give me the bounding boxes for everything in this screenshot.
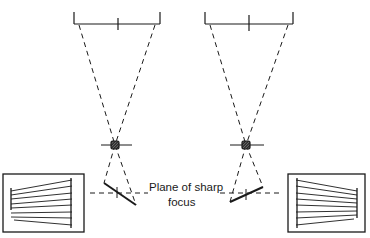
right-inset-image — [288, 174, 365, 232]
left-ray-lines — [79, 25, 155, 205]
left-lens-icon — [111, 141, 119, 149]
right-film-holder — [205, 12, 293, 31]
focus-plane-label: Plane of sharp — [149, 182, 223, 194]
left-film-holder — [74, 12, 160, 30]
left-camera — [74, 12, 160, 205]
left-subject-plane — [104, 183, 136, 205]
left-inset-image — [3, 174, 84, 232]
right-ray-lines — [210, 25, 288, 202]
focus-plane-label-line2: focus — [168, 197, 196, 209]
right-lens-icon — [242, 141, 250, 149]
right-camera — [205, 12, 293, 202]
